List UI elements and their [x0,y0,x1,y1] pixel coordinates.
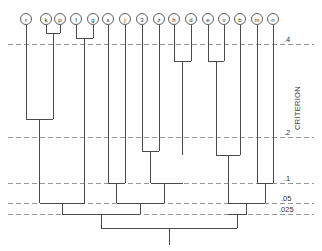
gridline-group [8,44,314,214]
dendrogram-svg: rkpfgsj3zhdevbmn .4.2.1.05.025 CRITERION [0,0,322,251]
leaf-label-v: v [223,17,226,23]
tick-label-group: .4.2.1.05.025 [279,35,294,214]
leaf-node-z: z [154,14,165,25]
leaf-node-3: 3 [137,14,148,25]
tick-label-p4: .4 [284,35,290,44]
leaf-node-group: rkpfgsj3zhdevbmn [21,14,279,25]
axis-title-criterion: CRITERION [293,86,302,130]
leaf-node-s: s [103,14,114,25]
leaf-label-d: d [189,17,192,23]
leaf-node-g: g [88,14,99,25]
tick-label-p1: .1 [284,174,290,183]
tree-line-group [26,25,273,245]
tick-label-p2: .2 [284,128,290,137]
leaf-node-e: e [203,14,214,25]
leaf-node-n: n [268,14,279,25]
leaf-label-r: r [25,17,27,23]
leaf-label-s: s [107,17,110,23]
leaf-label-m: m [255,17,260,23]
leaf-node-r: r [21,14,32,25]
leaf-node-h: h [169,14,180,25]
tick-label-p05: .05 [281,194,291,203]
tick-label-p025: .025 [279,205,294,214]
leaf-label-g: g [91,17,94,23]
leaf-label-h: h [172,17,175,23]
leaf-node-m: m [252,14,263,25]
leaf-node-p: p [55,14,66,25]
leaf-node-j: j [120,14,131,25]
leaf-node-f: f [71,14,82,25]
dendrogram-figure: rkpfgsj3zhdevbmn .4.2.1.05.025 CRITERION [0,0,322,251]
leaf-node-b: b [235,14,246,25]
leaf-node-d: d [186,14,197,25]
leaf-node-k: k [41,14,52,25]
leaf-label-j: j [123,17,125,23]
leaf-label-z: z [158,17,161,23]
leaf-label-n: n [271,17,274,23]
leaf-node-v: v [219,14,230,25]
